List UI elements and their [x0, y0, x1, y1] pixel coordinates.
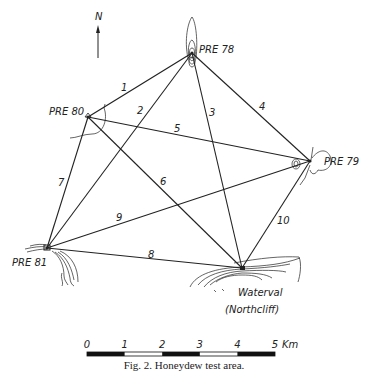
scale-unit: Km [282, 339, 299, 350]
scale-bar [87, 352, 275, 356]
line-label-6: 6 [160, 176, 166, 187]
survey-lines: 12345678910 [47, 53, 310, 268]
station-sublabel-waterval: (Northcliff) [225, 304, 279, 315]
scale-tick-3: 3 [197, 339, 203, 350]
survey-line-8 [47, 248, 242, 268]
line-label-7: 7 [58, 177, 65, 188]
line-label-4: 4 [259, 101, 265, 112]
station-marker-pre80 [86, 115, 89, 118]
station-marker-pre78 [190, 51, 193, 54]
scale-tick-2: 2 [159, 339, 165, 350]
station-label-waterval: Waterval [238, 287, 283, 298]
line-label-2: 2 [137, 105, 143, 116]
survey-line-5 [88, 117, 310, 161]
line-label-5: 5 [174, 123, 180, 134]
station-label-pre78: PRE 78 [199, 44, 234, 55]
station-label-pre81: PRE 81 [12, 257, 47, 268]
survey-line-6 [88, 117, 242, 268]
station-label-pre79: PRE 79 [324, 156, 359, 167]
scale-tick-4: 4 [234, 339, 240, 350]
line-label-1: 1 [121, 82, 127, 93]
station-marker-pre79 [308, 159, 311, 162]
station-label-pre80: PRE 80 [49, 106, 84, 117]
survey-line-7 [47, 117, 88, 248]
north-arrow-icon [96, 25, 100, 58]
line-label-10: 10 [277, 215, 290, 226]
scale-tick-1: 1 [121, 339, 127, 350]
scale-tick-5: 5 [272, 339, 278, 350]
figure-caption: Fig. 2. Honeydew test area. [124, 359, 245, 371]
survey-line-10 [242, 161, 310, 268]
scale-tick-0: 0 [84, 339, 90, 350]
survey-line-3 [192, 53, 242, 268]
scale-bar-labels: 012345 [84, 339, 278, 350]
line-label-8: 8 [148, 249, 154, 260]
station-marker-pre81 [45, 246, 48, 249]
survey-line-9 [47, 161, 310, 248]
diagram-canvas: N 12345678910 [0, 0, 367, 377]
line-label-3: 3 [209, 107, 215, 118]
north-label: N [95, 11, 103, 22]
line-label-9: 9 [116, 212, 122, 223]
station-marker-waterval [240, 266, 243, 269]
